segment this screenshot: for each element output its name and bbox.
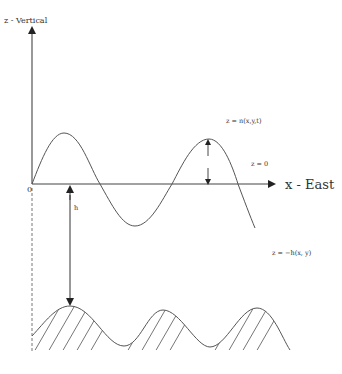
- horizontal-axis-label: x - East: [285, 177, 335, 192]
- depth-label: h: [74, 204, 78, 212]
- bed-hatching: [34, 300, 286, 352]
- free-surface-wave: [32, 133, 255, 228]
- bed-label: z = −h(x, y): [272, 249, 312, 257]
- vertical-axis-label: z - Vertical: [4, 16, 48, 25]
- origin-label: 0: [27, 185, 32, 194]
- wave-diagram: z - Vertical x - East 0 z = n(x,y,t) z =…: [0, 0, 342, 374]
- free-surface-label: z = n(x,y,t): [226, 117, 262, 125]
- mean-level-label: z = 0: [251, 160, 268, 168]
